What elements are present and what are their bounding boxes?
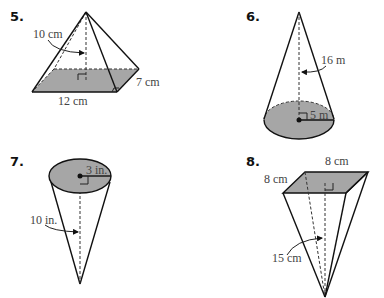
pyramid-height-label: 10 cm (33, 27, 63, 41)
pyramid-side-edge-label: 8 cm (264, 172, 288, 186)
problem-number-8: 8. (246, 154, 260, 169)
figure-6-cone: 6. 16 m 5 m (246, 9, 346, 139)
problem-number-7: 7. (10, 154, 24, 169)
problem-number-6: 6. (246, 9, 260, 24)
cone-radius-label: 5 m (310, 108, 329, 122)
figure-5-pyramid: 5. 10 cm 7 cm 12 cm (10, 9, 160, 108)
pyramid-width-label: 7 cm (136, 75, 160, 89)
cone-height-label: 10 in. (30, 213, 57, 227)
figure-8-inverted-pyramid: 8. 8 cm 8 cm 15 cm (246, 154, 368, 297)
pyramid-top-edge-label: 8 cm (325, 154, 349, 168)
problem-number-5: 5. (10, 9, 24, 24)
geometry-figures: 5. 10 cm 7 cm 12 cm 6. 16 m 5 m 7. (0, 0, 384, 298)
figure-7-inverted-cone: 7. 3 in. 10 in. (10, 154, 111, 284)
cone-height-label: 16 m (321, 53, 346, 67)
pyramid-height-label: 15 cm (272, 251, 302, 265)
figures-svg: 5. 10 cm 7 cm 12 cm 6. 16 m 5 m 7. (0, 0, 384, 298)
cone-radius-label: 3 in. (86, 163, 107, 177)
pyramid-length-label: 12 cm (58, 94, 88, 108)
